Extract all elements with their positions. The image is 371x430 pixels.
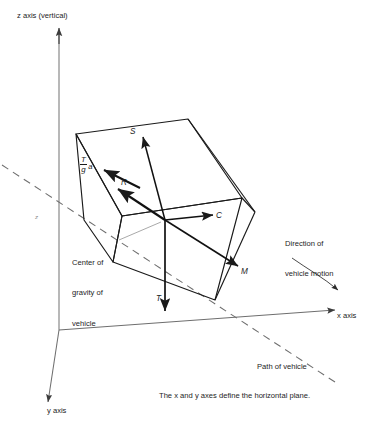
inertia-numerator: T xyxy=(80,156,87,164)
figure-caption: The x and y axes define the horizontal p… xyxy=(159,391,310,401)
center-of-gravity-line-3: vehicle xyxy=(72,319,103,329)
center-of-gravity-label: Center of gravity of vehicle xyxy=(72,237,103,350)
z-axis-label-text: axis (vertical) xyxy=(21,11,68,20)
direction-of-motion-line-2: vehicle motion xyxy=(285,269,334,279)
y-axis-label: y axis xyxy=(47,406,66,416)
inertia-suffix: a xyxy=(88,162,92,171)
vector-R-label: R xyxy=(121,177,127,188)
vector-C-arrow xyxy=(165,215,213,220)
vector-C-label: C xyxy=(216,210,222,221)
vector-M-label: M xyxy=(241,266,248,277)
x-axis-label-text: axis xyxy=(341,311,357,320)
caption-y-symbol: y xyxy=(195,391,199,400)
y-axis-label-text: axis xyxy=(51,406,67,415)
origin-z-marker: z xyxy=(35,213,38,221)
y-axis-line xyxy=(48,330,59,402)
vehicle-force-diagram xyxy=(0,0,371,430)
path-of-vehicle-label: Path of vehicle xyxy=(257,362,307,372)
vector-M-arrow xyxy=(165,220,238,266)
center-of-gravity-line-1: Center of xyxy=(72,258,103,268)
center-of-gravity-leader-line xyxy=(119,222,161,240)
inertia-fraction: T g xyxy=(80,156,87,174)
direction-of-motion-line-1: Direction of xyxy=(285,239,334,249)
caption-x-symbol: x xyxy=(174,391,178,400)
center-of-gravity-line-2: gravity of xyxy=(72,288,103,298)
vector-inertia-label: T g a xyxy=(80,156,93,174)
vehicle-front-right-face xyxy=(113,198,242,300)
x-axis-label: x axis xyxy=(337,311,356,321)
vehicle-rear-edge-top xyxy=(188,119,255,212)
inertia-denominator: g xyxy=(80,166,87,174)
direction-of-motion-label: Direction of vehicle motion xyxy=(285,218,334,300)
z-axis-label: z axis (vertical) xyxy=(17,11,68,21)
figure-canvas: z axis (vertical) x axis y axis z S C M … xyxy=(0,0,371,430)
vector-S-label: S xyxy=(130,126,135,137)
vector-T-label: T xyxy=(156,293,161,304)
